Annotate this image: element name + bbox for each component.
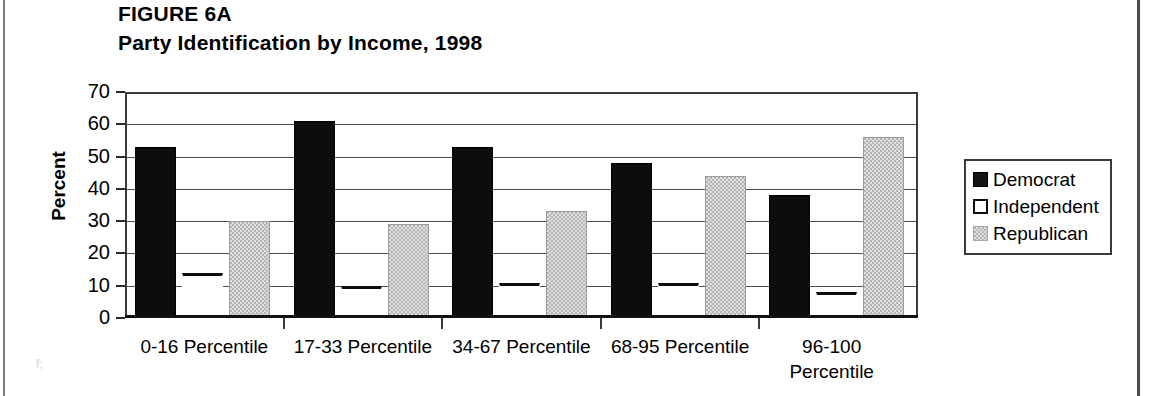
y-tick-mark (116, 252, 125, 254)
x-axis-separator-tick (600, 318, 602, 329)
x-axis-separator-tick (441, 318, 443, 329)
x-axis-separator-tick (758, 318, 760, 329)
y-tick-label: 70 (66, 81, 110, 101)
y-tick-label: 0 (66, 307, 110, 327)
x-tick-label: 68-95 Percentile (601, 334, 760, 359)
x-axis-baseline (125, 315, 918, 318)
legend-label: Republican (993, 224, 1088, 243)
figure-number: FIGURE 6A (118, 2, 232, 26)
legend-item[interactable]: Republican (973, 220, 1103, 247)
scan-artifact: f; (36, 356, 43, 371)
legend-swatch-democrat-icon (973, 172, 988, 187)
plot-area (125, 92, 918, 318)
legend-item[interactable]: Independent (973, 193, 1103, 220)
x-tick-label: 34-67 Percentile (442, 334, 601, 359)
legend-item[interactable]: Democrat (973, 166, 1103, 193)
y-tick-mark (116, 91, 125, 93)
y-tick-label: 60 (66, 113, 110, 133)
y-tick-mark (116, 220, 125, 222)
legend-swatch-republican-icon (973, 226, 988, 241)
page-margin-rule-left (3, 0, 5, 396)
y-tick-mark (116, 156, 125, 158)
plot-frame (125, 92, 918, 318)
y-tick-mark (116, 123, 125, 125)
x-tick-label: 96-100Percentile (759, 334, 904, 384)
legend-swatch-independent-icon (973, 199, 988, 214)
y-tick-label: 10 (66, 275, 110, 295)
legend-label: Independent (993, 197, 1099, 216)
chart-legend: DemocratIndependentRepublican (964, 159, 1112, 255)
x-tick-label: 17-33 Percentile (284, 334, 443, 359)
y-tick-label: 40 (66, 178, 110, 198)
x-tick-label: 0-16 Percentile (125, 334, 284, 359)
y-tick-mark (116, 285, 125, 287)
y-tick-label: 20 (66, 242, 110, 262)
y-tick-label: 50 (66, 146, 110, 166)
legend-label: Democrat (993, 170, 1075, 189)
page-margin-rule-right (1137, 0, 1140, 396)
y-tick-mark (116, 317, 125, 319)
y-tick-label: 30 (66, 210, 110, 230)
y-tick-mark (116, 188, 125, 190)
chart-title: Party Identification by Income, 1998 (118, 31, 482, 55)
x-axis-separator-tick (283, 318, 285, 329)
